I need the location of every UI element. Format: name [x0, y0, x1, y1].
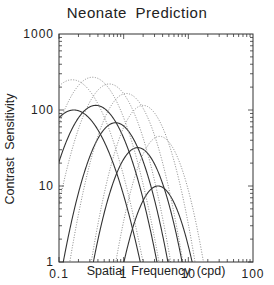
curve-dotted-1 — [56, 80, 146, 276]
curve-solid-3 — [61, 123, 171, 277]
ticks — [59, 34, 253, 262]
chart: Neonate Prediction 0.11101001101001000 C… — [0, 0, 274, 285]
x-axis-label: Spatial Frequency (cpd) — [59, 264, 253, 278]
y-tick-label: 1000 — [23, 27, 54, 41]
y-tick-label: 10 — [39, 179, 54, 193]
plot-frame — [59, 34, 253, 262]
curves — [56, 77, 206, 277]
y-axis-label: Contrast Sensitivity — [3, 79, 17, 219]
plot-area: 0.11101001101001000 — [0, 0, 274, 285]
curve-dotted-5 — [89, 105, 197, 276]
y-tick-label: 100 — [31, 103, 54, 117]
curve-dotted-2 — [56, 77, 162, 276]
y-tick-label: 1 — [46, 255, 54, 269]
